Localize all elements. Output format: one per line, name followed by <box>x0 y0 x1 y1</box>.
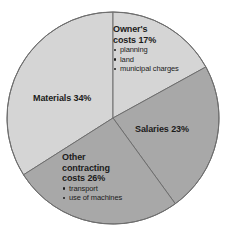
pie-label-owners-costs-line2: costs 17% <box>113 35 179 46</box>
pie-label-other-contracting-costs: Other contracting costs 26% transport us… <box>62 152 122 203</box>
pie-label-other-items: transport use of machines <box>62 184 122 203</box>
pie-label-salaries: Salaries 23% <box>135 124 189 135</box>
pie-label-other-line3: costs 26% <box>62 173 122 184</box>
pie-label-salaries-line1: Salaries 23% <box>135 124 189 135</box>
pie-chart: Owner's costs 17% planning land municipa… <box>0 0 227 238</box>
pie-label-owners-costs-line1: Owner's <box>113 24 179 35</box>
list-item: use of machines <box>62 193 122 203</box>
pie-label-owners-costs: Owner's costs 17% planning land municipa… <box>113 24 179 74</box>
list-item: planning <box>113 45 179 55</box>
list-item: municipal charges <box>113 64 179 74</box>
list-item: land <box>113 55 179 65</box>
list-item: transport <box>62 184 122 194</box>
pie-label-other-line2: contracting <box>62 163 122 174</box>
pie-label-other-line1: Other <box>62 152 122 163</box>
pie-label-materials-line1: Materials 34% <box>33 93 91 104</box>
pie-label-materials: Materials 34% <box>33 93 91 104</box>
pie-label-owners-costs-items: planning land municipal charges <box>113 45 179 74</box>
